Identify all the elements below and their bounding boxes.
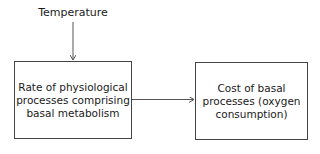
node-label: Rate of physiological processes comprisi… xyxy=(15,81,131,120)
node-cost-of-basal-processes: Cost of basal processes (oxygen consumpt… xyxy=(195,62,308,140)
node-label: Cost of basal processes (oxygen consumpt… xyxy=(196,82,307,121)
node-rate-of-physiological-processes: Rate of physiological processes comprisi… xyxy=(14,61,132,139)
